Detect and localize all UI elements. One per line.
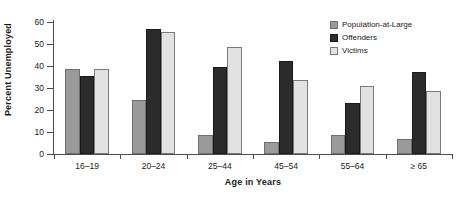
x-axis-category-label: 25–44 <box>208 161 232 171</box>
x-axis-title: Age in Years <box>54 177 452 187</box>
bar-20–24-Victims <box>161 32 176 154</box>
y-axis-tick-label: 50 <box>0 39 44 49</box>
bar-chart: Percent Unemployed 0102030405060 16–1920… <box>0 0 465 197</box>
x-axis-category-label: 55–64 <box>341 161 365 171</box>
bar-16–19-Offenders <box>80 76 95 154</box>
bar-16–19-Population-at-Large <box>65 69 80 154</box>
x-axis-category-label: 20–24 <box>142 161 166 171</box>
y-axis-tick-label: 40 <box>0 61 44 71</box>
y-axis-tick <box>47 66 54 67</box>
y-axis-tick <box>47 132 54 133</box>
bar-20–24-Offenders <box>146 29 161 154</box>
x-axis-category-label: ≥ 65 <box>411 161 427 171</box>
legend-swatch-icon <box>330 47 338 55</box>
bar-≥ 65-Population-at-Large <box>397 139 412 154</box>
x-axis-category-label: 45–54 <box>274 161 298 171</box>
legend-item: Victims <box>330 45 412 56</box>
chart-legend: Population-at-LargeOffendersVictims <box>330 19 412 58</box>
bar-20–24-Population-at-Large <box>132 100 147 154</box>
bar-55–64-Victims <box>360 86 375 154</box>
bar-55–64-Offenders <box>345 103 360 154</box>
bar-16–19-Victims <box>94 69 109 154</box>
y-axis-tick-label: 60 <box>0 17 44 27</box>
y-axis-tick <box>47 110 54 111</box>
legend-swatch-icon <box>330 21 338 29</box>
bar-25–44-Victims <box>227 47 242 154</box>
y-axis-tick-label: 0 <box>0 149 44 159</box>
legend-swatch-icon <box>330 34 338 42</box>
bar-45–54-Victims <box>293 80 308 154</box>
y-axis-tick-label: 20 <box>0 105 44 115</box>
bar-45–54-Offenders <box>279 61 294 155</box>
y-axis-tick <box>47 44 54 45</box>
bar-25–44-Population-at-Large <box>198 135 213 154</box>
y-axis-tick-label: 10 <box>0 127 44 137</box>
x-axis-tick <box>253 154 254 159</box>
y-axis-tick <box>47 22 54 23</box>
y-axis-tick <box>47 88 54 89</box>
legend-item: Offenders <box>330 32 412 43</box>
legend-item: Population-at-Large <box>330 19 412 30</box>
x-axis-tick <box>386 154 387 159</box>
x-axis-tick <box>319 154 320 159</box>
x-axis-tick <box>54 154 55 159</box>
x-axis-category-label: 16–19 <box>75 161 99 171</box>
bar-55–64-Population-at-Large <box>331 135 346 154</box>
legend-item-label: Victims <box>342 46 368 55</box>
bar-45–54-Population-at-Large <box>264 142 279 154</box>
x-axis-tick <box>120 154 121 159</box>
y-axis-tick-label: 30 <box>0 83 44 93</box>
legend-item-label: Population-at-Large <box>342 20 412 29</box>
y-axis-tick <box>47 154 54 155</box>
x-axis-tick <box>187 154 188 159</box>
bar-25–44-Offenders <box>213 67 228 154</box>
legend-item-label: Offenders <box>342 33 377 42</box>
bar-≥ 65-Offenders <box>412 72 427 155</box>
bar-≥ 65-Victims <box>426 91 441 154</box>
x-axis-tick <box>452 154 453 159</box>
